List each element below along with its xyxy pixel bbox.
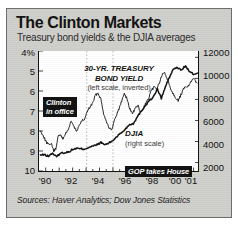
left-axis-tick-6: 6 — [7, 86, 35, 97]
left-axis-tick-9: 9 — [7, 146, 35, 157]
x-axis-tick-1994: '94 — [88, 175, 108, 186]
x-axis-tick-1990: '90 — [35, 175, 55, 186]
right-axis-tick-12000: 12000 — [203, 47, 229, 58]
right-axis-tick-8000: 8000 — [203, 93, 224, 104]
annotation-djia-sub: (right scale) — [125, 139, 164, 149]
clinton-line2: in office — [46, 107, 74, 116]
annotation-gop-takes-house: GOP takes House — [125, 160, 192, 178]
right-axis-tick-10000: 10000 — [203, 70, 229, 81]
left-axis-tick-7: 7 — [7, 106, 35, 117]
right-axis-tick-6000: 6000 — [203, 116, 224, 127]
gop-badge: GOP takes House — [125, 166, 192, 177]
annotation-bond-sub: (left scale, inverted) — [65, 83, 173, 93]
right-axis-tick-4000: 4000 — [203, 139, 224, 150]
chart-title: The Clinton Markets — [16, 14, 161, 32]
left-axis-tick-5: 5 — [7, 66, 35, 77]
left-axis-tick-8: 8 — [7, 126, 35, 137]
annotation-djia-label: DJIA — [125, 129, 164, 139]
chart-figure: The Clinton Markets Treasury bond yields… — [6, 8, 232, 218]
right-axis-spine — [198, 51, 199, 172]
left-axis-tick-4: 4% — [7, 47, 35, 58]
annotation-bond-line2: BOND YIELD — [65, 74, 173, 84]
annotation-clinton-in-office: Clinton in office — [43, 97, 77, 118]
annotation-bond-line1: 30-YR. TREASURY — [65, 64, 173, 74]
chart-subtitle: Treasury bond yields & the DJIA averages — [17, 32, 195, 43]
annotation-djia: DJIA (right scale) — [125, 129, 164, 148]
clinton-line1: Clinton — [46, 98, 71, 107]
chart-sources: Sources: Haver Analytics; Dow Jones Stat… — [17, 195, 190, 205]
clinton-badge: Clinton in office — [43, 97, 77, 117]
left-axis-tick-10: 10 — [7, 165, 35, 176]
annotation-bond-yield: 30-YR. TREASURY BOND YIELD (left scale, … — [65, 64, 173, 93]
right-axis-tick-2000: 2000 — [203, 162, 224, 173]
x-axis-tick-1992: '92 — [61, 175, 81, 186]
